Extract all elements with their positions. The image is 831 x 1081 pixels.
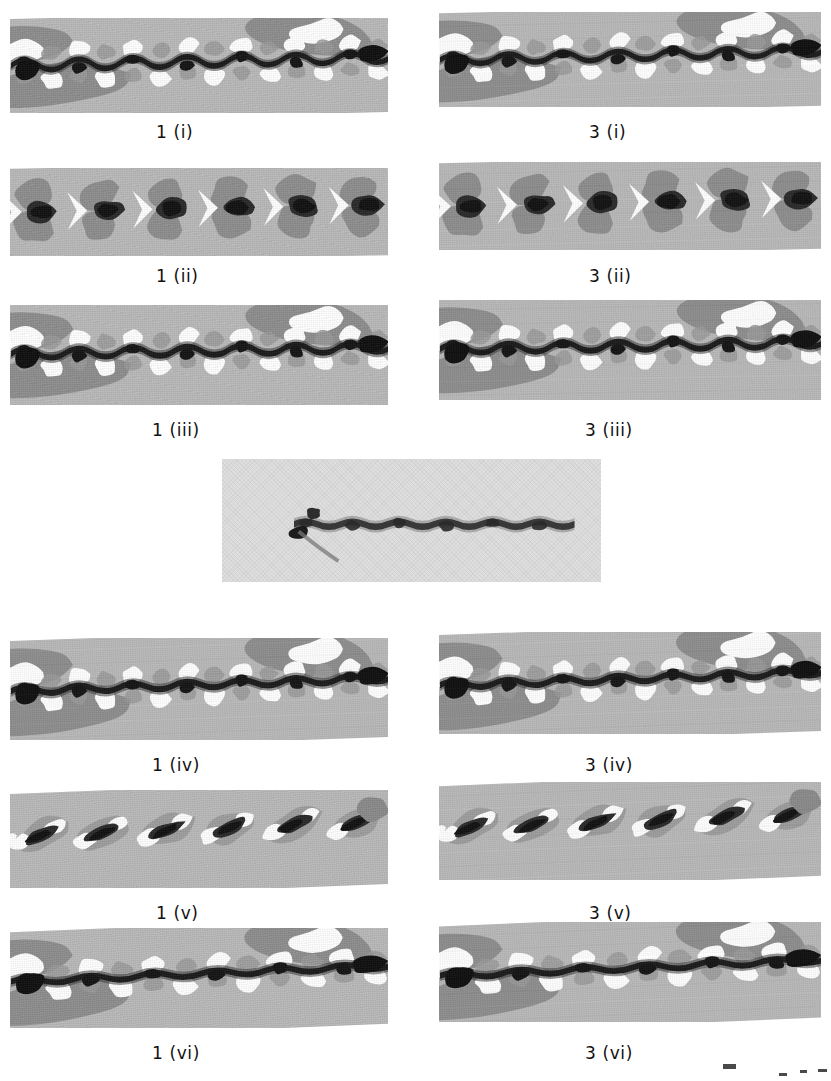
panel-p-3-ii (439, 162, 821, 250)
panel-p-center (222, 459, 601, 582)
plate-p-3-iv (439, 632, 821, 734)
figure-root: 1 (i)3 (i)1 (ii)3 (ii)1 (iii)3 (iii)1 (i… (0, 0, 831, 1081)
plate-p-1-ii (10, 168, 388, 256)
panel-p-1-v (10, 790, 388, 888)
stray-mark-1 (779, 1073, 787, 1076)
plate-p-center (222, 459, 601, 582)
plate-p-3-v (439, 782, 821, 880)
panel-caption-p-3-vi: 3 (vi) (585, 1043, 633, 1063)
plate-p-1-iv (10, 638, 388, 740)
panel-caption-p-3-v: 3 (v) (589, 903, 632, 923)
plate-p-3-i (439, 12, 821, 107)
panel-p-1-iii (10, 305, 388, 405)
plate-p-3-iii (439, 300, 821, 400)
panel-caption-p-1-v: 1 (v) (156, 903, 199, 923)
panel-caption-p-1-vi: 1 (vi) (152, 1043, 200, 1063)
panel-p-3-i (439, 12, 821, 107)
panel-p-3-iii (439, 300, 821, 400)
panel-caption-p-3-iii: 3 (iii) (585, 420, 633, 440)
panel-caption-p-3-i: 3 (i) (589, 122, 626, 142)
panel-p-1-vi (10, 928, 388, 1028)
stray-mark-3 (818, 1069, 827, 1072)
plate-p-1-iii (10, 305, 388, 405)
plate-p-1-vi (10, 928, 388, 1028)
film-grain-texture (222, 459, 601, 582)
panel-p-1-iv (10, 638, 388, 740)
panel-caption-p-1-i: 1 (i) (156, 122, 193, 142)
panel-caption-p-1-iv: 1 (iv) (152, 755, 200, 775)
panel-p-1-i (10, 18, 388, 113)
stray-mark-2 (800, 1070, 807, 1073)
panel-caption-p-3-iv: 3 (iv) (585, 755, 633, 775)
panel-caption-p-1-ii: 1 (ii) (156, 266, 199, 286)
plate-p-1-i (10, 18, 388, 113)
panel-p-3-v (439, 782, 821, 880)
plate-p-1-v (10, 790, 388, 888)
panel-caption-p-1-iii: 1 (iii) (152, 420, 200, 440)
panel-p-1-ii (10, 168, 388, 256)
panel-caption-p-3-ii: 3 (ii) (589, 266, 632, 286)
panel-p-3-vi (439, 922, 821, 1022)
plate-p-3-ii (439, 162, 821, 250)
plate-p-3-vi (439, 922, 821, 1022)
stray-mark-0 (723, 1064, 736, 1069)
panel-p-3-iv (439, 632, 821, 734)
